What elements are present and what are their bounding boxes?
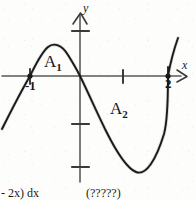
x-axis-label: x <box>182 58 187 73</box>
area-2-label: A2 <box>110 99 128 120</box>
area-2-subscript: 2 <box>122 108 128 120</box>
x-tick-label-neg-1: -1 <box>25 78 36 94</box>
area-1-base: A <box>44 52 56 71</box>
footer-right-fragment: (?????) <box>86 186 121 201</box>
area-2-base: A <box>110 99 122 118</box>
footer-left-fragment: - 2x) dx <box>1 186 39 201</box>
cubic-curve-figure <box>0 0 196 201</box>
cubic-curve-path <box>2 38 178 173</box>
area-1-label: A1 <box>44 52 62 73</box>
footer-cropped-text: - 2x) dx (?????) <box>0 186 196 201</box>
y-axis-label: y <box>83 1 88 16</box>
area-1-subscript: 1 <box>56 61 62 73</box>
cubic-curve-ink-shadow <box>2 38 178 173</box>
figure-page: A1 A2 -1 2 x y - 2x) dx (?????) <box>0 0 196 201</box>
x-tick-label-2: 2 <box>165 76 172 92</box>
